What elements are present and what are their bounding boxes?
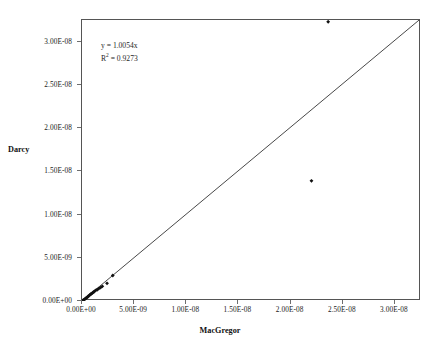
y-tick-label: 2.50E-08 — [20, 79, 72, 88]
y-tick-label: 2.00E-08 — [20, 123, 72, 132]
x-tick-label: 0.00E+00 — [66, 305, 95, 314]
y-tick-label: 1.50E-08 — [20, 166, 72, 175]
y-tick-label: 0.00E+00 — [20, 296, 72, 305]
x-tick-label: 1.00E-08 — [171, 305, 199, 314]
x-axis-title: MacGregor — [0, 326, 440, 335]
x-tick-label: 2.50E-08 — [328, 305, 356, 314]
y-tick-label: 1.00E-08 — [20, 209, 72, 218]
x-tick-label: 5.00E-09 — [119, 305, 147, 314]
trendline-annotation: y = 1.0054x R2 = 0.9273 — [101, 41, 138, 63]
x-tick-label: 1.50E-08 — [224, 305, 252, 314]
data-point — [310, 179, 314, 183]
y-tick-label: 5.00E-09 — [20, 252, 72, 261]
x-tick-label: 3.00E-08 — [380, 305, 408, 314]
x-tick-label: 2.00E-08 — [276, 305, 304, 314]
y-axis-title: Darcy — [8, 145, 29, 154]
data-point — [105, 281, 109, 285]
r-squared-number: = 0.9273 — [109, 53, 138, 62]
data-point — [326, 20, 330, 24]
trendline-equation: y = 1.0054x — [101, 41, 138, 51]
r-squared-value: R2 = 0.9273 — [101, 51, 138, 63]
y-tick-label: 3.00E-08 — [20, 36, 72, 45]
scatter-chart: Darcy 0.00E+005.00E-091.00E-081.50E-082.… — [0, 0, 440, 348]
